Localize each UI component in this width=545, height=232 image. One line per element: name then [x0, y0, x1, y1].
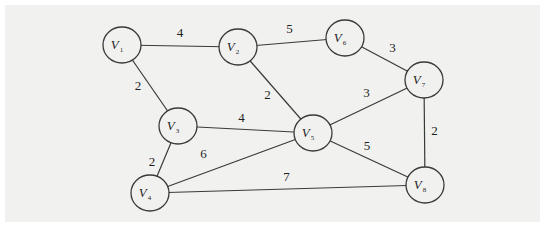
node-circle — [131, 175, 169, 211]
node-circle — [159, 108, 197, 144]
node-circle — [406, 167, 444, 203]
node-v4: V4 — [131, 175, 169, 211]
node-v8: V8 — [406, 167, 444, 203]
node-label-subscript: 4 — [148, 194, 152, 202]
edge-weight-v2-v6: 5 — [286, 21, 293, 36]
edge-weight-v5-v8: 5 — [364, 138, 371, 153]
graph-diagram: 425234263527 V1V2V3V4V5V6V7V8 — [0, 0, 545, 232]
node-label-subscript: 3 — [176, 127, 180, 135]
edge-weight-v2-v5: 2 — [264, 87, 271, 102]
edge-weight-v4-v8: 7 — [283, 169, 290, 184]
node-v5: V5 — [294, 115, 332, 151]
node-v2: V2 — [219, 29, 257, 65]
edge-weight-v1-v3: 2 — [135, 78, 142, 93]
node-circle — [103, 27, 141, 63]
node-circle — [294, 115, 332, 151]
edge-weight-v5-v7: 3 — [363, 85, 370, 100]
edge-weight-v4-v5: 6 — [200, 146, 207, 161]
edge-weight-v7-v8: 2 — [431, 123, 438, 138]
node-label-subscript: 7 — [422, 81, 426, 89]
node-v3: V3 — [159, 108, 197, 144]
edge-weight-v1-v2: 4 — [177, 25, 184, 40]
edge-weight-v3-v5: 4 — [238, 110, 245, 125]
edge-weight-v6-v7: 3 — [389, 40, 396, 55]
node-label-subscript: 2 — [236, 48, 240, 56]
edge-weight-v3-v4: 2 — [149, 154, 156, 169]
node-circle — [326, 20, 364, 56]
node-v6: V6 — [326, 20, 364, 56]
node-circle — [405, 62, 443, 98]
node-circle — [219, 29, 257, 65]
node-label-subscript: 6 — [343, 39, 347, 47]
node-label-subscript: 5 — [311, 134, 315, 142]
node-v7: V7 — [405, 62, 443, 98]
node-label-subscript: 1 — [120, 46, 124, 54]
node-label-subscript: 8 — [423, 186, 427, 194]
node-v1: V1 — [103, 27, 141, 63]
